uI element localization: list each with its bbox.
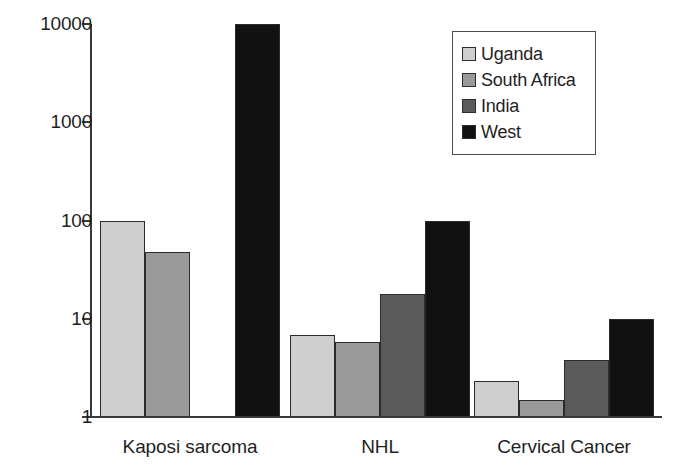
- y-axis-tick-label: 10000: [18, 14, 92, 33]
- legend-item: West: [462, 119, 587, 145]
- legend-item: South Africa: [462, 67, 587, 93]
- bar: [380, 294, 425, 417]
- bar: [564, 360, 609, 417]
- bar: [425, 221, 470, 418]
- legend-item-label: South Africa: [481, 70, 576, 90]
- legend-swatch-icon: [462, 99, 476, 113]
- y-axis-tick-label: 10: [18, 309, 92, 328]
- bar: [235, 24, 280, 417]
- bar: [474, 381, 519, 417]
- bar: [290, 335, 335, 417]
- legend-swatch-icon: [462, 73, 476, 87]
- bar: [145, 252, 190, 417]
- legend-item-label: West: [481, 122, 521, 142]
- legend-item-label: Uganda: [481, 44, 543, 64]
- bar-group: [290, 24, 470, 417]
- y-axis-tick-label: 100: [18, 211, 92, 230]
- bar-group: [100, 24, 280, 417]
- bar-chart: 100001000100101 Kaposi sarcomaNHLCervica…: [0, 0, 688, 473]
- legend: UgandaSouth AfricaIndiaWest: [452, 31, 596, 155]
- y-axis-tick-label: 1: [18, 407, 92, 426]
- bar: [609, 319, 654, 417]
- legend-item-label: India: [481, 96, 519, 116]
- legend-swatch-icon: [462, 125, 476, 139]
- bar: [100, 221, 145, 418]
- bar: [335, 342, 380, 417]
- bar: [519, 400, 564, 417]
- x-axis-category-label: Cervical Cancer: [444, 436, 684, 458]
- legend-item: India: [462, 93, 587, 119]
- legend-item: Uganda: [462, 41, 587, 67]
- y-axis-tick-label: 1000: [18, 112, 92, 131]
- x-axis-line: [90, 416, 662, 418]
- legend-swatch-icon: [462, 47, 476, 61]
